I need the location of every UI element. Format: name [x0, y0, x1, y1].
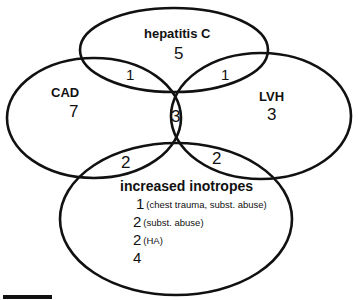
lvh-only-count: 3 [267, 105, 276, 125]
cad-ellipse [7, 58, 181, 178]
inotropes-row-note: (chest trauma, subst. abuse) [146, 199, 266, 210]
inotropes-row-note: (subst. abuse) [143, 217, 203, 228]
cad-only-count: 7 [69, 102, 78, 122]
hepatitis-c-only-count: 5 [174, 44, 183, 64]
inotropes-row: 1(chest trauma, subst. abuse) [136, 195, 267, 212]
inotropes-row-note: (HA) [143, 235, 163, 246]
hepatitis-c-label: hepatitis C [144, 26, 210, 41]
hepc-lvh-count: 1 [221, 66, 229, 83]
center-count: 3 [171, 107, 180, 127]
inotropes-row: 2(HA) [133, 231, 163, 248]
inotropes-row: 2(subst. abuse) [133, 213, 204, 230]
scale-bar [3, 295, 52, 299]
inotropes-row: 4 [133, 249, 143, 266]
lvh-inotropes-count: 2 [212, 149, 221, 169]
inotropes-row-count: 4 [133, 249, 141, 266]
cad-inotropes-count: 2 [121, 153, 130, 173]
cad-hepc-count: 1 [126, 66, 134, 83]
cad-label: CAD [51, 85, 79, 100]
inotropes-label: increased inotropes [120, 178, 253, 194]
inotropes-row-count: 1 [136, 195, 144, 212]
lvh-label: LVH [259, 89, 284, 104]
inotropes-row-count: 2 [133, 213, 141, 230]
inotropes-row-count: 2 [133, 231, 141, 248]
lvh-ellipse [171, 53, 351, 179]
